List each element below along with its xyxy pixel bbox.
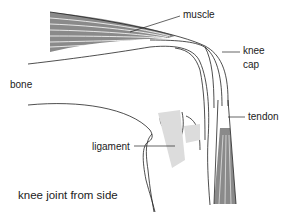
label-muscle: muscle — [183, 10, 215, 20]
diagram-caption: knee joint from side — [18, 190, 118, 202]
label-ligament: ligament — [92, 142, 130, 152]
ligament-shape — [158, 110, 200, 168]
label-tendon: tendon — [248, 112, 279, 122]
label-knee-cap-line1: knee — [243, 46, 265, 56]
label-bone: bone — [10, 80, 32, 90]
muscle-shape — [50, 12, 175, 52]
label-knee-cap-line2: cap — [243, 60, 259, 70]
tendon-shape — [214, 100, 236, 204]
knee-joint-diagram — [0, 0, 289, 216]
